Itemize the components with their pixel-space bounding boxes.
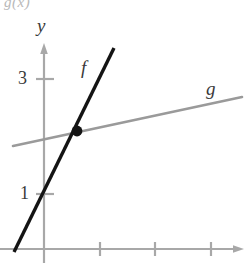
graph-figure: g(x) y f g 3 1 — [0, 0, 251, 263]
coordinate-plane — [0, 0, 251, 263]
curve-f-line — [14, 48, 114, 252]
curve-f-label: f — [81, 58, 86, 77]
y-tick-label-3: 3 — [18, 69, 27, 87]
y-axis — [40, 43, 48, 263]
y-axis-arrowhead — [40, 43, 48, 54]
intersection-point — [72, 126, 83, 137]
y-axis-label: y — [37, 16, 45, 35]
x-axis — [0, 245, 244, 253]
curve-g-label: g — [206, 79, 216, 98]
y-tick-label-1: 1 — [20, 184, 29, 202]
curve-g-line — [13, 97, 242, 146]
x-axis-arrowhead — [233, 245, 244, 253]
